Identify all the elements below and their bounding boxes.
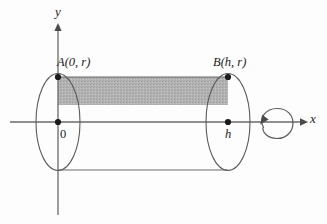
rotation-loop-icon [260,109,293,139]
height-label: h [225,128,231,141]
y-axis-label: y [55,5,61,18]
point-a-label: A(0, r) [57,56,90,69]
cylinder-revolution-figure: y x A(0, r) B(h, r) 0 h [0,0,327,224]
point-a-marker [55,74,61,80]
point-b-label: B(h, r) [213,56,246,69]
point-origin-marker [55,119,61,125]
figure-canvas [0,0,327,224]
arrow-up-icon [54,23,61,31]
point-b-marker [225,74,231,80]
origin-label: 0 [60,128,66,141]
shaded-generating-rectangle [58,77,228,105]
arrow-right-icon [300,118,308,126]
rotation-arrowhead-icon [260,115,268,125]
x-axis-label: x [310,112,316,125]
point-h-marker [225,119,231,125]
